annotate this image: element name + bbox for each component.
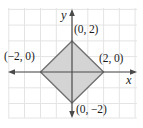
vertex-label-bottom: (0, −2) <box>76 104 107 116</box>
vertex-label-left: (−2, 0) <box>4 51 35 63</box>
y-axis-arrow-up <box>69 9 75 16</box>
graph-figure: (0, 2) (2, 0) (−2, 0) (0, −2) y x <box>0 0 143 128</box>
y-axis-arrow-down <box>69 111 75 118</box>
vertex-label-top: (0, 2) <box>74 24 98 36</box>
y-axis-label: y <box>61 9 67 22</box>
vertex-label-right: (2, 0) <box>99 53 123 65</box>
x-axis-label: x <box>126 74 132 87</box>
